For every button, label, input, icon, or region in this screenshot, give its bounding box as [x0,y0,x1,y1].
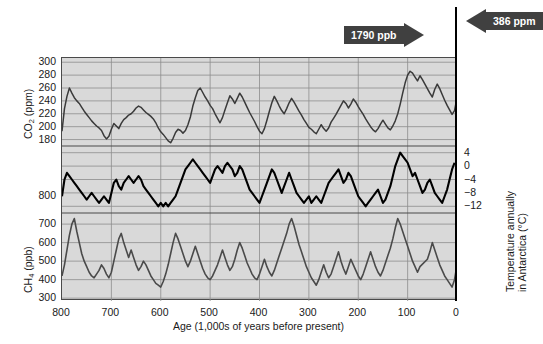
temperature-tick-4: 4 [464,147,490,158]
plot-area [61,57,456,300]
ch4-tick-300: 300 [25,292,56,303]
x-tick-0: 0 [434,307,478,318]
co2-tick-280: 280 [25,69,56,80]
x-tick-200: 200 [335,307,379,318]
co2-axis-title: CO2 (ppm) [22,89,34,139]
temperature-axis-title: Temperature annually in Antarctica (°C) [504,191,528,292]
co2-present-label: 386 ppm [486,12,543,30]
x-tick-300: 300 [286,307,330,318]
temperature-tick--4: −4 [464,174,490,185]
temperature-tick-0: 0 [464,160,490,171]
x-tick-800: 800 [39,307,83,318]
ch4-tick-700: 700 [25,218,56,229]
temperature-tick--12: −12 [464,200,490,211]
temperature-axis-title-line2: in Antarctica (°C) [516,191,528,292]
arrow-left-icon [466,9,486,33]
co2-present-annotation: 386 ppm [466,8,543,33]
x-tick-500: 500 [187,307,231,318]
x-tick-600: 600 [138,307,182,318]
data-series-layer [62,58,457,301]
temperature-series [62,153,455,207]
x-tick-700: 700 [88,307,132,318]
x-axis-title: Age (1,000s of years before present) [61,320,456,332]
ch4-present-label: 1790 ppb [344,26,404,44]
co2-series [62,71,457,143]
temperature-axis-title-line1: Temperature annually [504,191,516,292]
ch4-tick-800: 800 [25,190,56,201]
ch4-present-annotation: 1790 ppb [344,22,424,47]
x-tick-100: 100 [385,307,429,318]
co2-tick-300: 300 [25,56,56,67]
ch4-axis-title: CH4 (ppb) [22,246,34,293]
temperature-tick--8: −8 [464,187,490,198]
ch4-series [62,219,457,287]
present-day-line [455,7,457,301]
arrow-right-icon [404,23,424,47]
x-tick-400: 400 [237,307,281,318]
